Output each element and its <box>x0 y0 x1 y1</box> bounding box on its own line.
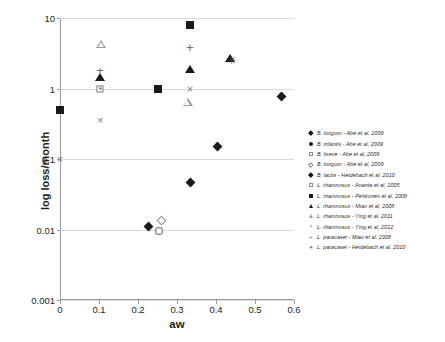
data-point: ✳ <box>227 54 236 65</box>
legend-marker-icon: × <box>305 224 317 229</box>
legend-item: ✳L. paracasei - Heidebach et al, 2010 <box>305 242 443 252</box>
y-tick-label: 10 <box>44 13 55 24</box>
gridline <box>60 159 294 160</box>
x-tick-label: 0.4 <box>209 304 222 315</box>
y-tick-mark <box>57 230 60 231</box>
data-point: + <box>186 41 194 54</box>
y-tick-label: 0.001 <box>31 295 55 306</box>
data-point <box>183 98 193 106</box>
data-point <box>155 228 162 235</box>
data-point <box>186 21 194 29</box>
legend-label: L. rhamnosus - Pehkonen et al, 2008 <box>317 193 407 199</box>
legend-marker-icon <box>305 204 317 208</box>
legend-item: ×L. rhamnosus - Ying et al, 2012 <box>305 222 443 232</box>
legend-glyph <box>309 142 313 146</box>
legend-label: B. infantis - Abe et al, 2009 <box>317 141 383 147</box>
legend-glyph <box>309 214 313 218</box>
legend-label: L. rhamnosus - Miao et al, 2008 <box>317 203 394 209</box>
chart-legend: B. longum - Abe et al, 2009B. infantis -… <box>305 128 443 253</box>
legend-glyph <box>308 131 313 136</box>
gridline <box>60 230 294 231</box>
gridline <box>60 89 294 90</box>
legend-marker-icon <box>305 194 317 198</box>
data-point <box>56 106 64 114</box>
y-axis-title: log loss/month <box>39 132 51 210</box>
legend-marker-icon <box>305 131 317 135</box>
plot-area: 1010.10.010.001 00.10.20.30.40.50.6 ×××+… <box>60 18 294 300</box>
legend-marker-icon <box>305 173 317 177</box>
chart-figure: log loss/month 1010.10.010.001 00.10.20.… <box>0 0 445 342</box>
legend-label: L. rhamnosus - Ananta et al, 2005 <box>317 182 400 188</box>
data-point: × <box>187 83 193 94</box>
legend-glyph <box>309 183 313 187</box>
legend-item: L. rhamnosus - Pehkonen et al, 2008 <box>305 190 443 200</box>
x-tick-label: 0.3 <box>170 304 183 315</box>
legend-label: L. rhamnosus - Ying et al, 2012 <box>317 224 393 230</box>
x-tick-label: 0.6 <box>287 304 300 315</box>
y-tick-mark <box>57 18 60 19</box>
legend-marker-icon <box>305 183 317 187</box>
legend-item: B. breve - Abe et al, 2009 <box>305 149 443 159</box>
legend-glyph: ✳ <box>309 245 313 250</box>
data-point <box>97 85 104 92</box>
data-point <box>154 85 162 93</box>
y-tick-label: 0.01 <box>37 224 56 235</box>
legend-item: B. infantis - Abe et al, 2009 <box>305 138 443 148</box>
legend-marker-icon <box>305 142 317 146</box>
legend-item: L. rhamnosus - Ananta et al, 2005 <box>305 180 443 190</box>
y-tick-label: 1 <box>50 83 55 94</box>
legend-marker-icon <box>305 214 317 218</box>
legend-marker-icon <box>305 163 317 167</box>
legend-label: B. lactis - Heidebach et al, 2010 <box>317 172 395 178</box>
legend-marker-icon: ✳ <box>305 245 317 250</box>
data-point: × <box>57 154 63 165</box>
y-tick-label: 0.1 <box>42 154 55 165</box>
legend-label: L. paracasei - Miao et al, 2008 <box>317 234 391 240</box>
data-point <box>96 40 106 48</box>
data-point: + <box>96 65 104 78</box>
legend-label: B. longum - Abe et al, 2009 <box>317 161 383 167</box>
x-tick-label: 0.2 <box>131 304 144 315</box>
legend-glyph <box>309 204 313 208</box>
legend-glyph <box>308 162 313 167</box>
x-tick-label: 0 <box>57 304 62 315</box>
legend-glyph: + <box>309 234 313 240</box>
legend-item: L. rhamnosus - Ying et al, 2011 <box>305 211 443 221</box>
legend-glyph <box>309 194 313 198</box>
legend-label: L. paracasei - Heidebach et al, 2010 <box>317 244 405 250</box>
legend-item: +L. paracasei - Miao et al, 2008 <box>305 232 443 242</box>
legend-label: L. rhamnosus - Ying et al, 2011 <box>317 213 393 219</box>
y-tick-mark <box>57 89 60 90</box>
legend-label: B. longum - Abe et al, 2009 <box>317 130 383 136</box>
data-point: × <box>97 114 103 125</box>
legend-item: B. longum - Abe et al, 2009 <box>305 159 443 169</box>
data-point <box>185 65 195 73</box>
legend-marker-icon <box>305 152 317 156</box>
legend-glyph: × <box>310 224 313 229</box>
x-tick-label: 0.5 <box>248 304 261 315</box>
legend-label: B. breve - Abe et al, 2009 <box>317 151 379 157</box>
legend-glyph <box>308 172 313 177</box>
legend-marker-icon: + <box>305 234 317 240</box>
legend-item: B. longum - Abe et al, 2009 <box>305 128 443 138</box>
x-tick-label: 0.1 <box>92 304 105 315</box>
legend-glyph <box>309 152 313 156</box>
x-axis-title: aw <box>60 318 294 330</box>
legend-item: B. lactis - Heidebach et al, 2010 <box>305 170 443 180</box>
legend-item: L. rhamnosus - Miao et al, 2008 <box>305 201 443 211</box>
gridline <box>60 18 294 19</box>
